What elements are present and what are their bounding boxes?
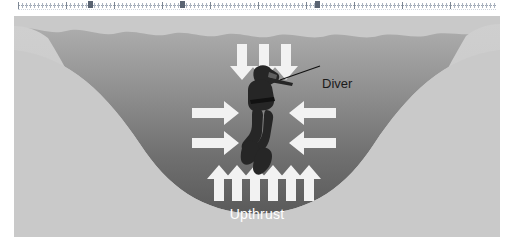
ruler-tick-minor [134,3,135,8]
ruler-tick-minor [338,3,339,8]
ruler-tick-minor [286,3,287,8]
ruler-tick-minor [394,3,395,8]
ruler-tick-minor [42,3,43,8]
ruler-tick-major [66,2,67,9]
ruler-tick-minor [218,3,219,8]
ruler-tick-minor [22,3,23,8]
ruler-tick-minor [202,3,203,8]
ruler-tick-minor [198,3,199,8]
ruler-tick-minor [222,3,223,8]
ruler-tick-minor [110,3,111,8]
ruler-tick-minor [146,3,147,8]
ruler-tick-minor [342,3,343,8]
ruler-tick-minor [462,3,463,8]
ruler-tick-minor [30,3,31,8]
ruler-tick-minor [194,3,195,8]
tab-stop-marker-2[interactable] [180,1,185,8]
ruler-tick-minor [330,3,331,8]
tab-stop-marker-3[interactable] [315,1,320,8]
ruler-tick-minor [414,3,415,8]
ruler-tick-minor [386,3,387,8]
ruler-tick-major [114,2,115,9]
ruler-tick-minor [406,3,407,8]
ruler-tick-minor [166,3,167,8]
ruler-tick-minor [26,3,27,8]
ruler-tick-minor [350,3,351,8]
ruler-tick-minor [82,3,83,8]
ruler-tick-minor [358,3,359,8]
ruler-tick-minor [398,3,399,8]
ruler-tick-minor [254,3,255,8]
ruler-tick-minor [282,3,283,8]
ruler-tick-major [402,2,403,9]
ruler-tick-minor [438,3,439,8]
ruler-tick-minor [446,3,447,8]
ruler-tick-minor [266,3,267,8]
ruler-tick-minor [206,3,207,8]
ruler-tick-minor [310,3,311,8]
ruler-tick-minor [434,3,435,8]
ruler-tick-minor [422,3,423,8]
diver-forces-figure: Diver Upthrust [14,16,500,237]
ruler-tick-minor [486,3,487,8]
ruler-tick-minor [430,3,431,8]
ruler-tick-major [162,2,163,9]
ruler-tick-minor [274,3,275,8]
ruler-tick-minor [378,3,379,8]
ruler-tick-minor [174,3,175,8]
ruler-tick-minor [74,3,75,8]
ruler-tick-minor [478,3,479,8]
ruler-tick-minor [178,3,179,8]
ruler-tick-minor [270,3,271,8]
ruler-tick-minor [54,3,55,8]
figure-canvas [14,16,500,237]
ruler-tick-minor [102,3,103,8]
ruler-tick-minor [130,3,131,8]
ruler-tick-minor [154,3,155,8]
ruler-tick-minor [106,3,107,8]
ruler-tick-minor [474,3,475,8]
ruler-tick-minor [418,3,419,8]
ruler-tick-minor [230,3,231,8]
ruler-tick-minor [138,3,139,8]
ruler-tick-minor [482,3,483,8]
ruler-tick-minor [390,3,391,8]
ruler-tick-minor [38,3,39,8]
ruler-tick-minor [58,3,59,8]
ruler-tick-major [258,2,259,9]
ruler-tick-major [18,2,19,9]
ruler-tick-minor [362,3,363,8]
ruler-tick-minor [238,3,239,8]
ruler-tick-minor [94,3,95,8]
ruler-tick-minor [186,3,187,8]
ruler-tick-minor [366,3,367,8]
ruler-tick-minor [226,3,227,8]
ruler-tick-minor [490,3,491,8]
tab-stop-marker-1[interactable] [88,1,93,8]
ruler-tick-minor [86,3,87,8]
ruler-tick-minor [302,3,303,8]
ruler-tick-minor [262,3,263,8]
ruler-tick-minor [118,3,119,8]
ruler-tick-minor [294,3,295,8]
ruler-tick-major [450,2,451,9]
ruler-tick-minor [78,3,79,8]
ruler-tick-minor [494,3,495,8]
ruler-tick-minor [170,3,171,8]
ruler-tick-minor [458,3,459,8]
ruler-tick-minor [142,3,143,8]
ruler-tick-minor [346,3,347,8]
ruler-tick-minor [322,3,323,8]
ruler-tick-minor [382,3,383,8]
ruler-tick-minor [298,3,299,8]
ruler-tick-minor [214,3,215,8]
ruler-tick-minor [370,3,371,8]
ruler-tick-minor [150,3,151,8]
ruler-tick-minor [374,3,375,8]
ruler-tick-minor [242,3,243,8]
ruler-tick-minor [250,3,251,8]
ruler-tick-minor [454,3,455,8]
document-ruler[interactable] [0,0,514,13]
ruler-tick-minor [278,3,279,8]
ruler-tick-minor [410,3,411,8]
